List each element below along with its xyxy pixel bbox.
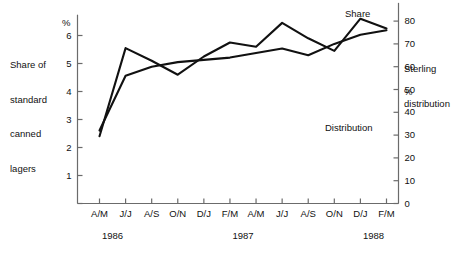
series-group xyxy=(100,19,387,137)
left-axis-unit-label: % xyxy=(62,17,70,29)
year-label-2: 1988 xyxy=(353,230,393,241)
left-axis-tick-label-5: 5 xyxy=(56,58,72,69)
left-axis-tick-label-1: 1 xyxy=(56,170,72,181)
right-axis-tick-label-60: 60 xyxy=(405,61,425,72)
left-caption-line-3: canned xyxy=(10,128,72,140)
right-axis-tick-label-50: 50 xyxy=(405,84,425,95)
x-axis-tick-label-11: F/M xyxy=(370,208,404,219)
right-axis-tick-label-0: 0 xyxy=(405,198,425,209)
right-axis-tick-label-70: 70 xyxy=(405,38,425,49)
year-label-0: 1986 xyxy=(93,230,133,241)
left-axis-tick-label-6: 6 xyxy=(56,30,72,41)
left-axis-tick-label-2: 2 xyxy=(56,142,72,153)
right-axis-tick-label-80: 80 xyxy=(405,15,425,26)
axes-group xyxy=(78,3,399,204)
right-axis-tick-label-40: 40 xyxy=(405,106,425,117)
right-axis-tick-label-20: 20 xyxy=(405,152,425,163)
left-axis-tick-label-3: 3 xyxy=(56,114,72,125)
left-axis-tick-label-4: 4 xyxy=(56,86,72,97)
series-line-share xyxy=(100,19,387,137)
right-axis-tick-label-30: 30 xyxy=(405,129,425,140)
right-axis-tick-label-10: 10 xyxy=(405,175,425,186)
series-label-share: Share xyxy=(345,8,370,20)
chart-figure: Share of standard canned lagers % % Shar… xyxy=(0,0,476,263)
year-label-1: 1987 xyxy=(223,230,263,241)
series-label-distribution: Distribution xyxy=(325,122,373,134)
